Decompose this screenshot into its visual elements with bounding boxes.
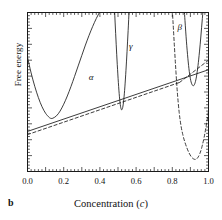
curve-label-alpha: α [89, 73, 94, 82]
curve-label-beta: β [177, 23, 181, 32]
x-axis-label-close: ) [144, 198, 148, 209]
panel-letter: b [8, 198, 14, 208]
x-axis-label-text: Concentration ( [74, 198, 140, 209]
x-tick-label: 1.0 [196, 176, 222, 186]
x-tick-label: 0.2 [51, 176, 77, 186]
x-tick-label: 0.8 [159, 176, 185, 186]
x-axis-label: Concentration (c) [0, 199, 222, 210]
alpha-free-energy-curve [28, 0, 110, 119]
x-tick-label: 0.4 [87, 176, 113, 186]
gamma-free-energy-curve [114, 0, 130, 110]
x-tick-label: 0.6 [123, 176, 149, 186]
y-axis-label: Free energy [14, 25, 23, 105]
x-tick-label: 0.0 [15, 176, 41, 186]
plot-frame [28, 13, 209, 172]
figure-panel-b: Free energy Concentration (c) b 0.00.20.… [0, 0, 222, 220]
curve-label-gamma: γ [129, 42, 133, 51]
axis-ticks [28, 13, 209, 172]
common-tangent-line-dashed [28, 82, 180, 134]
free-energy-plot [0, 0, 222, 220]
